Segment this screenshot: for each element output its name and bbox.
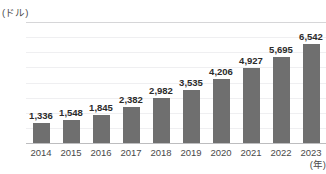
bar-value-label: 2,382 [119, 94, 143, 105]
bar-chart: (ドル) 8 兆7 兆6 兆5 兆4 兆3 兆2 兆1 兆0 1,3361,54… [0, 0, 326, 174]
bar [123, 107, 140, 143]
bar-value-label: 4,206 [209, 66, 233, 77]
x-axis-tick-label: 2018 [150, 147, 171, 158]
x-axis-tick-label: 2017 [120, 147, 141, 158]
bar [183, 90, 200, 143]
bar-series: 1,3361,5481,8452,3822,9823,5354,2064,927… [26, 22, 326, 143]
bar-value-label: 1,845 [89, 102, 113, 113]
bar-slot: 6,542 [296, 22, 326, 143]
bar [243, 68, 260, 143]
x-axis-tick-label: 2015 [60, 147, 81, 158]
bar-value-label: 2,982 [149, 85, 173, 96]
bar [153, 98, 170, 143]
bar-slot: 2,382 [116, 22, 146, 143]
x-axis-tick-label: 2022 [270, 147, 291, 158]
x-axis-tick-label: 2016 [90, 147, 111, 158]
bar-slot: 1,548 [56, 22, 86, 143]
bar-value-label: 3,535 [179, 77, 203, 88]
bar-slot: 5,695 [266, 22, 296, 143]
y-axis-unit-label: (ドル) [2, 5, 28, 19]
bar [303, 44, 320, 143]
bar [213, 79, 230, 143]
x-axis-tick-label: 2020 [210, 147, 231, 158]
x-axis-tick-label: 2014 [30, 147, 51, 158]
bar [63, 120, 80, 143]
bar-value-label: 6,542 [299, 31, 323, 42]
x-axis-tick-label: 2021 [240, 147, 261, 158]
bar-value-label: 1,336 [29, 110, 53, 121]
bar-slot: 4,927 [236, 22, 266, 143]
bar-slot: 2,982 [146, 22, 176, 143]
x-axis-line [26, 143, 326, 144]
bar-value-label: 4,927 [239, 55, 263, 66]
bar [33, 123, 50, 143]
bar [93, 115, 110, 143]
x-axis-tick-label: 2019 [180, 147, 201, 158]
plot-area: 8 兆7 兆6 兆5 兆4 兆3 兆2 兆1 兆0 1,3361,5481,84… [26, 22, 326, 144]
x-axis-unit-label: (年) [310, 157, 326, 171]
bar-slot: 1,336 [26, 22, 56, 143]
bar-slot: 1,845 [86, 22, 116, 143]
bar-value-label: 5,695 [269, 44, 293, 55]
bar-slot: 4,206 [206, 22, 236, 143]
bar [273, 57, 290, 143]
bar-value-label: 1,548 [59, 107, 83, 118]
bar-slot: 3,535 [176, 22, 206, 143]
